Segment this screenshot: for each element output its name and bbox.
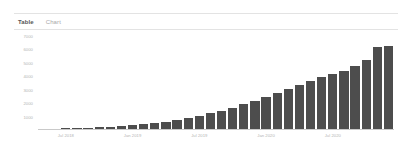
y-axis-tick: 2000 — [23, 101, 33, 106]
bar[interactable] — [184, 118, 193, 129]
x-axis-tick: Jul 2020 — [325, 133, 341, 138]
x-axis: Jul 2018Jan 2019Jul 2019Jan 2020Jul 2020 — [38, 133, 394, 142]
bar-chart: 7000600050004000300020001000 Jul 2018Jan… — [14, 36, 398, 144]
bar[interactable] — [384, 46, 393, 129]
bar[interactable] — [373, 47, 382, 129]
bar[interactable] — [228, 108, 237, 129]
bar[interactable] — [206, 113, 215, 129]
x-axis-tick: Jul 2019 — [191, 133, 207, 138]
bar[interactable] — [306, 81, 315, 129]
x-axis-tick: Jan 2020 — [257, 133, 275, 138]
bar[interactable] — [239, 104, 248, 129]
bar[interactable] — [362, 60, 371, 129]
bar[interactable] — [217, 111, 226, 129]
y-axis-tick: 6000 — [23, 47, 33, 52]
bar-series — [38, 36, 394, 129]
bar[interactable] — [261, 97, 270, 129]
x-axis-line — [38, 129, 394, 130]
bar[interactable] — [317, 77, 326, 129]
bar[interactable] — [195, 116, 204, 129]
tab-table[interactable]: Table — [18, 18, 41, 26]
bar[interactable] — [250, 101, 259, 129]
bar[interactable] — [284, 89, 293, 129]
y-axis-tick: 7000 — [23, 34, 33, 39]
x-axis-tick: Jul 2018 — [58, 133, 74, 138]
tab-bar: Table Chart — [14, 13, 398, 30]
bar[interactable] — [273, 93, 282, 129]
y-axis-tick: 4000 — [23, 74, 33, 79]
chart-panel: Table Chart 7000600050004000300020001000… — [0, 0, 412, 152]
y-axis-tick: 1000 — [23, 114, 33, 119]
bar[interactable] — [295, 85, 304, 129]
bar[interactable] — [161, 122, 170, 129]
y-axis-tick: 5000 — [23, 60, 33, 65]
y-axis-tick: 3000 — [23, 87, 33, 92]
bar[interactable] — [339, 71, 348, 129]
bar[interactable] — [328, 74, 337, 129]
x-axis-tick: Jan 2019 — [124, 133, 142, 138]
tab-chart[interactable]: Chart — [46, 18, 68, 26]
plot-area — [38, 36, 394, 130]
bar[interactable] — [172, 120, 181, 129]
bar[interactable] — [350, 66, 359, 129]
y-axis: 7000600050004000300020001000 — [14, 36, 36, 130]
